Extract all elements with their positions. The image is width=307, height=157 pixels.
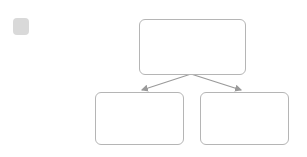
bottom-left-box-part [95, 92, 184, 145]
arrow-right [191, 74, 241, 90]
top-box-whole [139, 19, 246, 75]
bottom-right-box-answer[interactable] [200, 92, 289, 145]
arrow-left [142, 74, 191, 90]
